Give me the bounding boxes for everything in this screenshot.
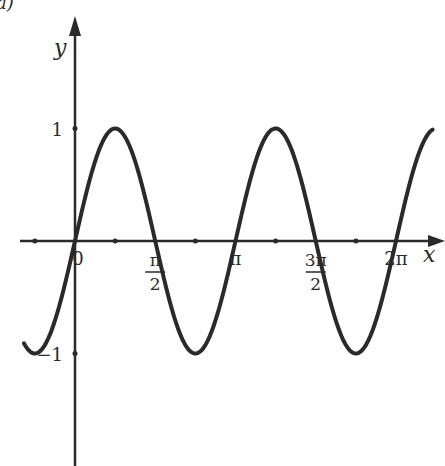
- x-tick-label: 0: [72, 248, 83, 269]
- x-tick-label-numerator: π: [150, 250, 161, 270]
- axes: [20, 16, 445, 466]
- x-minor-tick: [273, 239, 278, 244]
- x-axis-label: x: [423, 242, 436, 267]
- y-tick: [73, 126, 78, 131]
- x-tick-label-numerator: 3π: [305, 250, 327, 270]
- x-tick-label: π: [230, 248, 242, 269]
- x-tick-label-denominator: 2: [310, 274, 321, 294]
- y-axis-arrow-icon: [69, 16, 81, 36]
- y-tick-label: −1: [36, 344, 63, 365]
- y-axis-label: y: [53, 35, 67, 60]
- x-tick-label-denominator: 2: [150, 274, 161, 294]
- panel-label: a): [0, 0, 14, 13]
- sine-chart: 0π2π3π22π1−1 a) y x: [0, 0, 445, 466]
- y-tick-label: 1: [52, 119, 63, 140]
- x-minor-tick: [113, 239, 118, 244]
- x-minor-tick: [353, 239, 358, 244]
- x-minor-tick: [32, 239, 37, 244]
- x-minor-tick: [193, 239, 198, 244]
- x-tick-label: 2π: [384, 248, 407, 269]
- y-tick: [73, 351, 78, 356]
